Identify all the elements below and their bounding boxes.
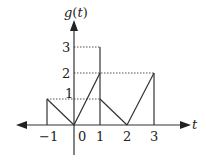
segment [127,73,154,125]
x-tick-2: 2 [123,129,131,144]
y-tick-3: 3 [62,40,70,55]
x-tick-neg1: −1 [39,129,58,144]
signal-plot: g(t) t 3 2 1 −1 0 1 2 3 [0,0,206,166]
signal-segments [47,47,154,125]
x-tick-0: 0 [78,129,86,144]
x-axis-left-arrow-icon [16,121,27,129]
y-tick-1: 1 [65,86,73,101]
segment [100,99,127,125]
x-axis-label: t [192,117,198,132]
y-tick-2: 2 [62,66,70,81]
x-tick-1: 1 [96,129,104,144]
y-axis-up-arrow-icon [70,20,78,31]
x-tick-3: 3 [150,129,158,144]
x-axis-right-arrow-icon [180,121,191,129]
segment [47,99,74,125]
y-axis-label: g(t) [64,5,88,20]
